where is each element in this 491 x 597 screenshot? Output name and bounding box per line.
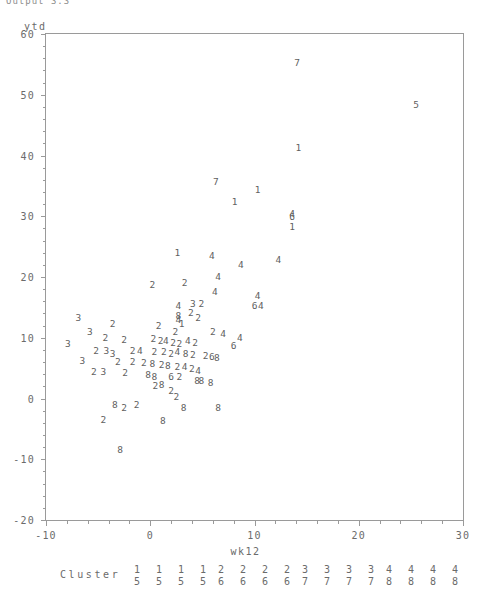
data-point: 1 [174, 248, 180, 258]
data-point: 2 [110, 320, 116, 330]
y-tick-label: 50 [0, 89, 35, 100]
legend-item: 48 [425, 564, 441, 588]
data-point: 2 [134, 400, 140, 410]
data-point: 4 [258, 301, 264, 311]
y-tick-mark [41, 277, 46, 278]
x-minor-tick-mark [400, 521, 401, 524]
top-caption: Output 3.3 [6, 0, 70, 6]
data-point: 2 [189, 365, 195, 375]
legend-item: 37 [297, 564, 313, 588]
y-tick-label: 20 [0, 272, 35, 283]
x-minor-tick-mark [296, 521, 297, 524]
data-point: 2 [91, 368, 97, 378]
y-minor-tick-mark [43, 447, 46, 448]
y-minor-tick-mark [43, 435, 46, 436]
y-minor-tick-mark [43, 508, 46, 509]
data-point: 4 [176, 301, 182, 311]
data-point: 8 [181, 403, 187, 413]
x-minor-tick-mark [129, 521, 130, 524]
data-point: 8 [112, 400, 118, 410]
y-tick-mark [41, 459, 46, 460]
legend-item-top: 4 [425, 564, 441, 576]
x-tick-label: -10 [35, 530, 57, 541]
y-minor-tick-mark [43, 46, 46, 47]
data-point: 8 [215, 403, 221, 413]
data-point: 2 [192, 338, 198, 348]
chart-canvas: Output 3.3 ytd wk12 -20-100102030405060 … [0, 0, 491, 597]
data-point: 2 [173, 393, 179, 403]
y-minor-tick-mark [43, 180, 46, 181]
legend-item-bottom: 8 [447, 576, 463, 588]
data-point: 2 [130, 346, 136, 356]
y-tick-mark [41, 95, 46, 96]
data-point: 5 [413, 100, 419, 110]
legend-item-top: 2 [235, 564, 251, 576]
data-point: 2 [130, 357, 136, 367]
data-point: 8 [198, 377, 204, 387]
legend-item-top: 3 [319, 564, 335, 576]
x-minor-tick-mark [192, 521, 193, 524]
x-minor-tick-mark [171, 521, 172, 524]
legend-item: 15 [173, 564, 189, 588]
y-minor-tick-mark [43, 265, 46, 266]
y-tick-mark [41, 216, 46, 217]
data-point: 8 [208, 378, 214, 388]
data-point: 2 [152, 347, 158, 357]
legend-item-bottom: 6 [257, 576, 273, 588]
legend-item-bottom: 5 [173, 576, 189, 588]
legend-item-top: 4 [403, 564, 419, 576]
legend-item-top: 2 [213, 564, 229, 576]
y-minor-tick-mark [43, 471, 46, 472]
data-point: 1 [289, 222, 295, 232]
data-point: 2 [161, 348, 167, 358]
legend-item: 37 [363, 564, 379, 588]
y-minor-tick-mark [43, 131, 46, 132]
y-minor-tick-mark [43, 496, 46, 497]
x-tick-label: 20 [352, 530, 366, 541]
y-tick-label: -20 [0, 515, 35, 526]
data-point: 7 [294, 58, 300, 68]
y-minor-tick-mark [43, 326, 46, 327]
legend-item: 48 [447, 564, 463, 588]
legend-item: 26 [279, 564, 295, 588]
y-minor-tick-mark [43, 192, 46, 193]
data-point: 2 [168, 349, 174, 359]
x-minor-tick-mark [109, 521, 110, 524]
x-tick-label: 10 [247, 530, 261, 541]
legend-item-bottom: 5 [151, 576, 167, 588]
legend-item: 48 [403, 564, 419, 588]
data-point: 7 [213, 177, 219, 187]
data-point: 2 [103, 333, 109, 343]
legend-item-top: 3 [297, 564, 313, 576]
y-minor-tick-mark [43, 374, 46, 375]
data-point: 8 [214, 354, 220, 364]
legend-item-top: 3 [341, 564, 357, 576]
data-point: 4 [276, 255, 282, 265]
legend-item-top: 1 [151, 564, 167, 576]
data-point: 1 [179, 320, 185, 330]
legend-item-bottom: 7 [297, 576, 313, 588]
data-point: 3 [87, 327, 93, 337]
legend-item-bottom: 6 [279, 576, 295, 588]
data-point: 2 [121, 403, 127, 413]
data-point: 8 [160, 416, 166, 426]
y-minor-tick-mark [43, 107, 46, 108]
legend-item-bottom: 8 [381, 576, 397, 588]
legend-item-top: 1 [129, 564, 145, 576]
x-tick-mark [463, 521, 464, 526]
data-point: 6 [231, 342, 237, 352]
y-minor-tick-mark [43, 350, 46, 351]
data-point: 1 [255, 185, 261, 195]
legend-item: 48 [381, 564, 397, 588]
data-point: 3 [100, 368, 106, 378]
x-tick-mark [359, 521, 360, 526]
x-minor-tick-mark [88, 521, 89, 524]
data-point: 2 [115, 357, 121, 367]
legend-item-bottom: 7 [319, 576, 335, 588]
x-tick-label: 30 [456, 530, 470, 541]
y-tick-label: 10 [0, 332, 35, 343]
data-point: 8 [159, 380, 165, 390]
x-minor-tick-mark [442, 521, 443, 524]
plot-area: -20-100102030405060 -100102030 751711461… [45, 33, 464, 521]
y-tick-label: 0 [0, 393, 35, 404]
